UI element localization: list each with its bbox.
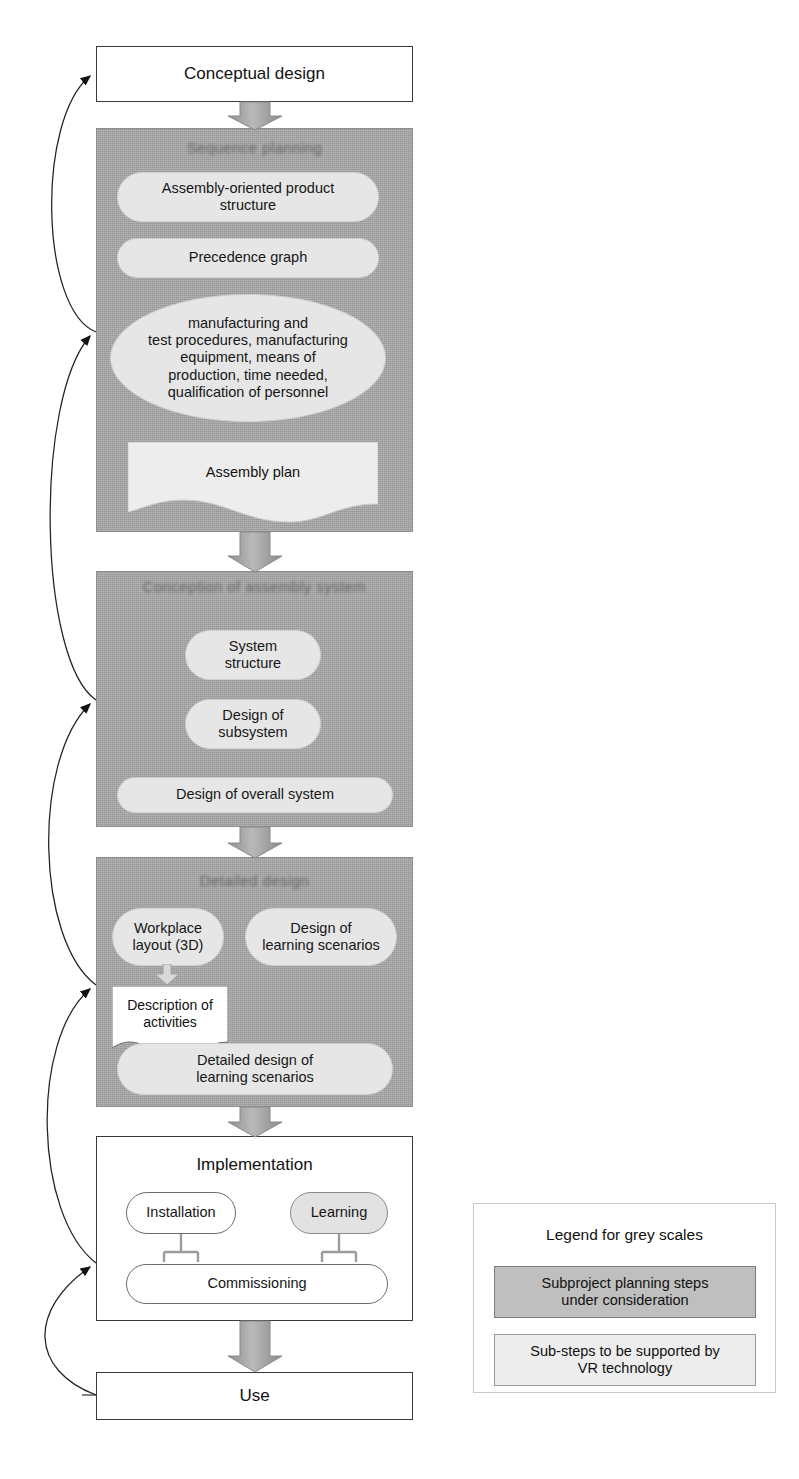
substep-label: manufacturing and test procedures, manuf… (138, 315, 358, 401)
impl-item-label: Learning (311, 1204, 367, 1221)
substep-label: Design of learning scenarios (262, 920, 380, 954)
substep-design-of-overall-system[interactable]: Design of overall system (117, 777, 393, 813)
legend-box: Legend for grey scales Subproject planni… (473, 1203, 776, 1393)
substep-label: System structure (225, 638, 281, 672)
substep-system-structure[interactable]: System structure (185, 630, 321, 680)
block-arrow-down-2 (228, 532, 282, 572)
impl-item-label: Commissioning (207, 1275, 306, 1292)
stage-2-title: Conception of assembly system (97, 578, 412, 597)
block-arrow-down-small (152, 964, 182, 990)
impl-item-label: Installation (146, 1204, 215, 1221)
substep-label: Detailed design of learning scenarios (196, 1052, 314, 1086)
substep-label: Precedence graph (189, 249, 308, 266)
legend-swatch-label: Sub-steps to be supported by VR technolo… (530, 1343, 719, 1378)
impl-item-commissioning[interactable]: Commissioning (126, 1264, 388, 1304)
substep-design-of-subsystem[interactable]: Design of subsystem (185, 699, 321, 749)
legend-swatch-subproject-planning-steps: Subproject planning steps under consider… (494, 1266, 756, 1318)
document-shape-icon (128, 442, 378, 524)
substep-manufacturing-and-test-procedures[interactable]: manufacturing and test procedures, manuf… (110, 294, 386, 422)
stage-1-title: Sequence planning (97, 139, 412, 156)
substep-workplace-layout-3d[interactable]: Workplace layout (3D) (112, 908, 224, 966)
legend-title: Legend for grey scales (474, 1226, 775, 1244)
node-conceptual-design-label: Conceptual design (184, 64, 325, 84)
substep-precedence-graph[interactable]: Precedence graph (117, 238, 379, 278)
implementation-title: Implementation (97, 1155, 412, 1175)
substep-label: Assembly-oriented product structure (162, 180, 334, 214)
substep-assembly-oriented-product-structure[interactable]: Assembly-oriented product structure (117, 172, 379, 222)
block-arrow-down-4 (228, 1107, 282, 1137)
impl-item-learning[interactable]: Learning (290, 1192, 388, 1234)
node-use[interactable]: Use (96, 1372, 413, 1420)
substep-label: Design of subsystem (218, 707, 287, 741)
legend-swatch-label: Subproject planning steps under consider… (542, 1275, 709, 1310)
block-arrow-down-3 (228, 827, 282, 858)
diagram-canvas: Conceptual design Sequence planning Asse… (0, 0, 799, 1479)
impl-item-installation[interactable]: Installation (126, 1192, 236, 1234)
stage-3-title: Detailed design (97, 872, 412, 889)
substep-label: Design of overall system (176, 786, 334, 803)
node-use-label: Use (239, 1386, 269, 1406)
substep-label: Description of activities (112, 997, 228, 1030)
block-arrow-down-1 (228, 102, 282, 130)
substep-label: Assembly plan (128, 464, 378, 481)
legend-swatch-vr-supported-substeps: Sub-steps to be supported by VR technolo… (494, 1334, 756, 1386)
substep-design-of-learning-scenarios[interactable]: Design of learning scenarios (245, 908, 397, 966)
node-conceptual-design[interactable]: Conceptual design (96, 46, 413, 102)
substep-detailed-design-of-learning-scenarios[interactable]: Detailed design of learning scenarios (117, 1043, 393, 1095)
substep-assembly-plan[interactable]: Assembly plan (128, 442, 378, 524)
substep-label: Workplace layout (3D) (133, 920, 204, 954)
block-arrow-down-5 (228, 1321, 282, 1372)
